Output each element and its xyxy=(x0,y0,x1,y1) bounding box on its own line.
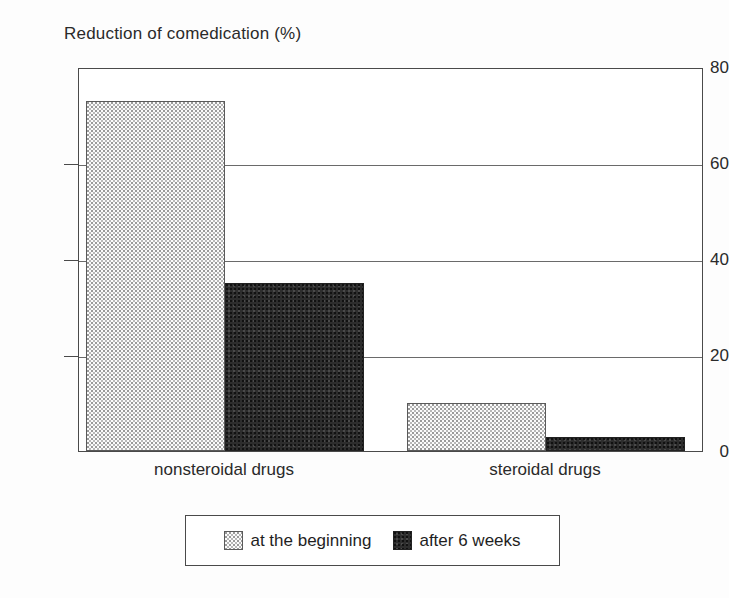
y-axis-tick-mark xyxy=(64,164,78,165)
chart-figure: Reduction of comedication (%) 806040200 … xyxy=(0,0,729,598)
bar-steroidal-drugs-after-6-weeks xyxy=(546,437,685,451)
y-axis-tick-mark xyxy=(64,260,78,261)
bar-nonsteroidal-drugs-after-6-weeks xyxy=(225,283,364,451)
bar-steroidal-drugs-at-the-beginning xyxy=(407,403,546,451)
chart-title: Reduction of comedication (%) xyxy=(64,24,301,44)
x-axis-tick-label: nonsteroidal drugs xyxy=(154,460,294,480)
dark-solid-swatch xyxy=(393,531,412,550)
light-dotted-swatch xyxy=(224,531,243,550)
bar-nonsteroidal-drugs-at-the-beginning xyxy=(86,101,225,451)
legend-item-label: after 6 weeks xyxy=(419,531,520,551)
chart-legend: at the beginningafter 6 weeks xyxy=(185,515,560,566)
legend-item-label: at the beginning xyxy=(250,531,371,551)
legend-item: after 6 weeks xyxy=(393,531,520,551)
plot-area xyxy=(78,68,703,452)
y-axis-tick-mark xyxy=(64,356,78,357)
legend-item: at the beginning xyxy=(224,531,371,551)
x-axis-tick-label: steroidal drugs xyxy=(489,460,601,480)
